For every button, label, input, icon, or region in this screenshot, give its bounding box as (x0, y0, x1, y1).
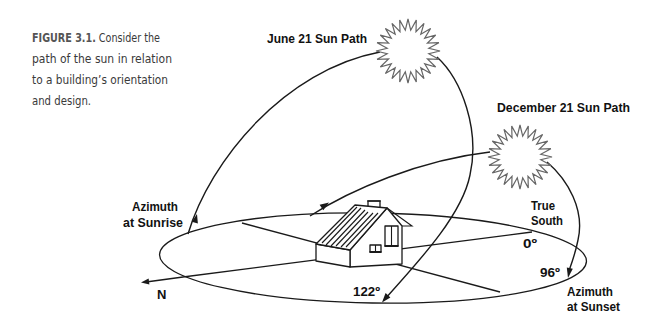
june-sun-path-rising (188, 52, 380, 234)
true-south-label-line-1: True (531, 198, 555, 213)
north-arrow-line (146, 277, 183, 282)
azimuth-sunset-label-line-1: Azimuth (567, 284, 613, 299)
figure-label: FIGURE 3.1. (32, 31, 96, 45)
june-sunset-angle-label: 122º (353, 284, 380, 299)
caption-line-3: to a building’s orientation (32, 73, 168, 87)
december-sun-path-rising (310, 152, 490, 216)
north-arrowhead-icon (141, 278, 149, 284)
june-sun-path-label: June 21 Sun Path (267, 31, 367, 46)
sun-path-diagram: FIGURE 3.1. Consider the path of the sun… (0, 0, 664, 330)
azimuth-sunrise-label-line-2: at Sunrise (123, 215, 183, 230)
caption-line-4: and design. (32, 94, 91, 108)
caption-line-2: path of the sun in relation (32, 52, 172, 66)
house-icon (316, 201, 412, 267)
june-sun-icon (376, 19, 440, 83)
true-south-label-line-2: South (531, 213, 563, 228)
december-sun-icon (488, 125, 552, 189)
azimuth-sunrise-label-line-1: Azimuth (132, 199, 178, 214)
december-sunset-arrowhead-icon (567, 268, 573, 278)
north-label: N (157, 287, 166, 302)
december-sun-path-label: December 21 Sun Path (497, 100, 630, 115)
caption-line-1: FIGURE 3.1. Consider the (32, 31, 160, 45)
azimuth-sunset-label-line-2: at Sunset (567, 299, 621, 314)
december-sunset-angle-label: 96º (540, 265, 560, 280)
caption-text: Consider the (96, 31, 160, 45)
south-angle-label: 0º (523, 236, 537, 251)
figure-caption: FIGURE 3.1. Consider the path of the sun… (32, 31, 172, 108)
